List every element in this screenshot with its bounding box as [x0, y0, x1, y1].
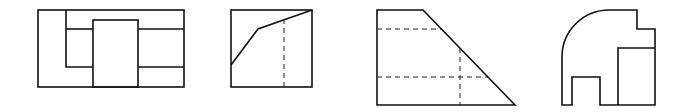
view-2-slope-line — [231, 10, 312, 65]
view-2 — [231, 10, 312, 87]
view-1-center-block — [93, 20, 138, 87]
view-1 — [38, 10, 184, 87]
view-3 — [377, 10, 515, 105]
view-4-inner-block — [618, 48, 655, 105]
drawing-canvas — [0, 0, 683, 112]
view-4-outline — [562, 10, 655, 105]
view-4 — [562, 10, 655, 105]
view-1-inner-l — [66, 10, 93, 67]
view-1-outline — [38, 10, 184, 87]
view-3-outline — [377, 10, 515, 105]
